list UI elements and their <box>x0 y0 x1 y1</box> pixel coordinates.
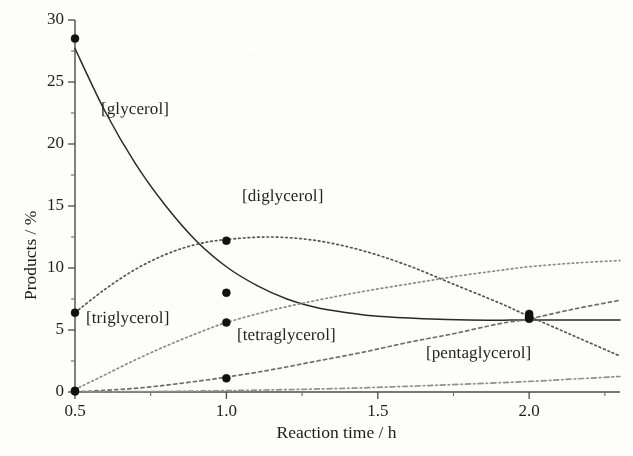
y-tick-label-5: 5 <box>0 319 64 339</box>
data-point-tetraglycerol <box>222 374 230 382</box>
y-tick-label-0: 0 <box>0 381 64 401</box>
series-curve-diglycerol <box>75 237 620 356</box>
data-point-glycerol <box>222 289 230 297</box>
series-curve-pentaglycerol <box>75 377 620 393</box>
series-label-pentaglycerol: [pentaglycerol] <box>426 343 531 363</box>
series-curve-glycerol <box>75 49 620 321</box>
plot-canvas <box>0 0 633 456</box>
x-tick-label-1.0: 1.0 <box>196 401 256 421</box>
series-label-glycerol: [glycerol] <box>101 99 169 119</box>
figure-chart: 0 5 10 15 20 25 30 0.5 1.0 1.5 2.0 React… <box>0 0 633 456</box>
y-tick-label-20: 20 <box>0 133 64 153</box>
data-point-diglycerol <box>71 309 79 317</box>
data-point-triglycerol <box>222 319 230 327</box>
y-axis-title: Products / % <box>20 211 41 300</box>
y-tick-label-30: 30 <box>0 9 64 29</box>
y-tick-label-25: 25 <box>0 71 64 91</box>
x-axis-title: Reaction time / h <box>0 422 633 443</box>
data-point-tetraglycerol <box>525 315 533 323</box>
data-point-glycerol <box>71 35 79 43</box>
x-tick-label-2.0: 2.0 <box>499 401 559 421</box>
series-label-triglycerol: [triglycerol] <box>86 308 169 328</box>
data-point-diglycerol <box>222 237 230 245</box>
data-point-pentaglycerol <box>71 387 79 395</box>
x-tick-label-1.5: 1.5 <box>348 401 408 421</box>
x-tick-label-0.5: 0.5 <box>45 401 105 421</box>
series-label-diglycerol: [diglycerol] <box>242 186 323 206</box>
series-label-tetraglycerol: [tetraglycerol] <box>237 325 336 345</box>
